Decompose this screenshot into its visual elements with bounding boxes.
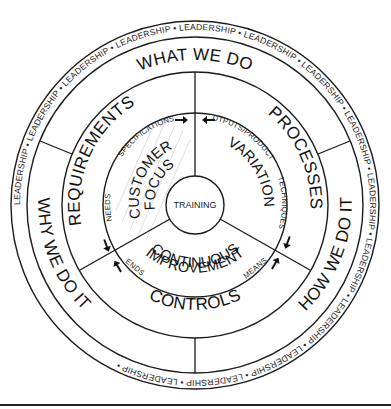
divider-upper-right bbox=[318, 141, 350, 154]
label-why-we-do-it: WHY WE DO IT bbox=[34, 198, 95, 314]
leadership-wheel-diagram: LEADERSHIP • LEADERSHIP • LEADERSHIP • L… bbox=[0, 0, 391, 409]
bottom-rule bbox=[0, 404, 391, 406]
label-training: TRAINING bbox=[173, 200, 216, 210]
label-variation: VARIATION bbox=[225, 134, 277, 208]
arrow-down-icon bbox=[282, 235, 294, 250]
label-improvement: IMPROVEMENT bbox=[143, 244, 247, 276]
label-controls: CONTROLS bbox=[147, 285, 244, 314]
arrow-right-icon bbox=[175, 116, 188, 124]
label-what-we-do: WHAT WE DO bbox=[134, 45, 255, 75]
divider-upper-left bbox=[40, 141, 72, 154]
label-needs: NEEDS bbox=[103, 193, 114, 222]
label-means: MEANS bbox=[242, 256, 269, 281]
label-techniques: TECHNIQUES bbox=[276, 175, 289, 230]
